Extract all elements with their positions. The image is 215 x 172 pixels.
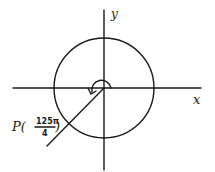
point-label-prefix: P( — [11, 119, 27, 134]
unit-circle-diagram: y x P( 125π 4 ) — [0, 0, 215, 172]
point-label-denominator: 4 — [42, 129, 48, 138]
point-label: P( 125π 4 ) — [11, 117, 60, 138]
point-label-suffix: ) — [54, 119, 60, 134]
y-axis-label: y — [110, 7, 118, 21]
x-axis-label: x — [193, 92, 201, 107]
